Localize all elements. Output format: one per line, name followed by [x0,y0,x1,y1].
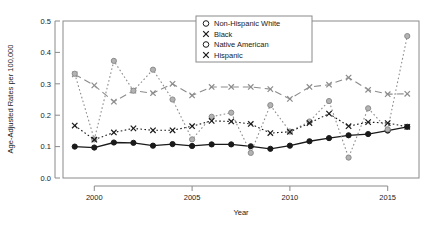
y-tick-label: 0.5 [41,17,51,26]
chart-canvas: 0.00.10.20.30.40.5 2000200520102015 Non-… [0,0,434,225]
chart-legend: Non-Hispanic WhiteBlackNative AmericanHi… [196,16,312,62]
data-point [150,143,155,148]
series-line [75,74,408,101]
legend-label: Native American [214,40,269,49]
y-tick-label: 0.0 [41,174,51,183]
data-point [229,142,234,147]
data-point [307,139,312,144]
data-point [111,58,116,63]
x-tick-label: 2010 [282,193,299,202]
x-tick-label: 2015 [379,193,396,202]
legend-label: Non-Hispanic White [214,19,280,28]
data-point [326,98,331,103]
y-tick-label: 0.3 [41,80,51,89]
x-tick-label: 2000 [86,193,103,202]
data-point [366,106,371,111]
data-point [346,155,351,160]
series-non-hispanic-white [72,124,410,151]
data-point [326,136,331,141]
x-axis-title: Year [233,208,249,217]
series-line [75,127,408,149]
data-point [72,71,77,76]
data-point [150,67,155,72]
legend-label: Black [214,30,233,39]
y-tick-label: 0.1 [41,142,51,151]
data-point [189,137,194,142]
series-line [75,114,408,140]
y-axis-ticks: 0.00.10.20.30.40.5 [41,17,60,183]
data-point [131,88,136,93]
data-point [268,103,273,108]
x-axis-ticks: 2000200520102015 [86,186,396,202]
y-tick-label: 0.4 [41,48,51,57]
legend-label: Hispanic [214,51,243,60]
y-axis-title: Age-Adjusted Rates per 100,000 [6,45,15,154]
series-black [72,72,410,105]
y-tick-label: 0.2 [41,111,51,120]
data-point [287,143,292,148]
data-point [405,33,410,38]
chart-figure: 0.00.10.20.30.40.5 2000200520102015 Non-… [0,0,434,225]
data-point [268,146,273,151]
data-point [92,145,97,150]
data-point [346,133,351,138]
x-tick-label: 2005 [184,193,201,202]
data-point [366,131,371,136]
data-point [72,144,77,149]
series-hispanic [72,111,410,142]
data-point [229,110,234,115]
data-point [111,140,116,145]
data-point [248,150,253,155]
data-point [189,143,194,148]
data-point [209,142,214,147]
data-point [131,140,136,145]
data-point [170,97,175,102]
data-point [170,141,175,146]
data-point [385,127,390,132]
